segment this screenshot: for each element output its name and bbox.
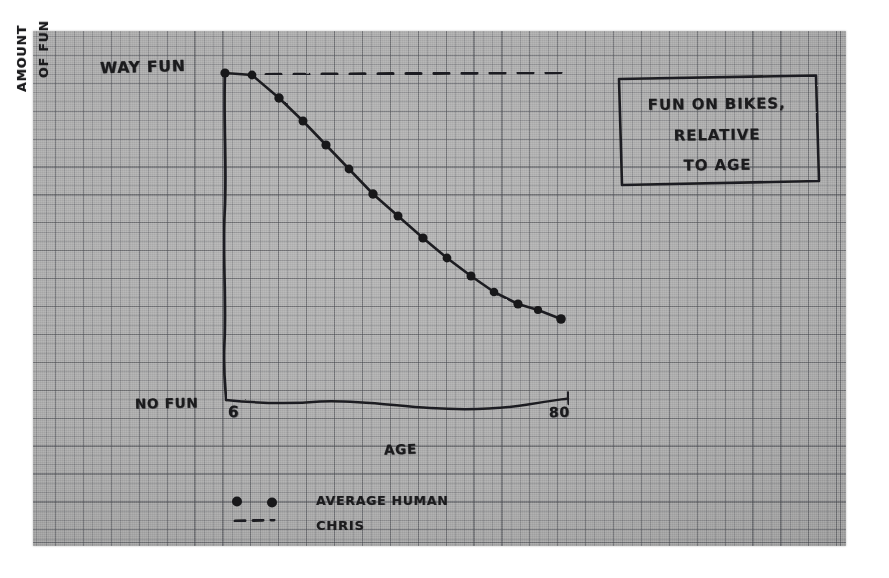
legend-label: AVERAGE HUMAN: [316, 493, 448, 508]
screenshot-root: WAY FUN NO FUN 6 80 AGE AMOUNT OF FUN FU…: [0, 0, 889, 578]
x-axis-tick-label-left: 6: [228, 405, 240, 421]
legend-label: CHRIS: [316, 518, 365, 533]
chart-title-line-1: FUN ON BIKES,: [618, 94, 816, 114]
chart-title-line-3: TO AGE: [618, 155, 816, 175]
chart-title-card: FUN ON BIKES, RELATIVE TO AGE: [617, 75, 816, 185]
x-axis-title: AGE: [384, 442, 417, 457]
chart-title-line-2: RELATIVE: [618, 125, 816, 145]
x-axis-tick-label-right: 80: [549, 405, 570, 419]
y-axis-title-line-2: OF FUN: [36, 20, 51, 78]
y-axis-title-line-1: AMOUNT: [14, 25, 29, 92]
y-axis-top-label: WAY FUN: [100, 59, 186, 77]
y-axis-bottom-label: NO FUN: [135, 396, 199, 411]
